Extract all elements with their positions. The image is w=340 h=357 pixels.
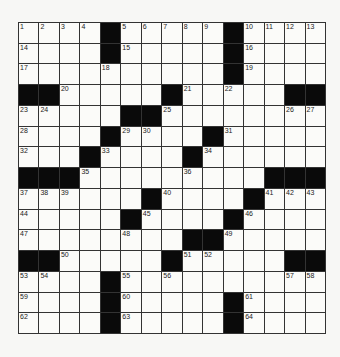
grid-cell[interactable]	[183, 210, 202, 230]
grid-cell[interactable]	[183, 44, 202, 64]
grid-cell[interactable]: 24	[39, 106, 58, 126]
grid-cell[interactable]: 57	[285, 272, 304, 292]
grid-cell[interactable]: 13	[306, 23, 325, 43]
grid-cell[interactable]	[265, 85, 284, 105]
grid-cell[interactable]	[183, 189, 202, 209]
grid-cell[interactable]	[142, 44, 161, 64]
grid-cell[interactable]	[306, 147, 325, 167]
grid-cell[interactable]	[183, 106, 202, 126]
grid-cell[interactable]: 5	[121, 23, 140, 43]
grid-cell[interactable]	[203, 106, 222, 126]
grid-cell[interactable]	[142, 293, 161, 313]
grid-cell[interactable]: 53	[19, 272, 38, 292]
grid-cell[interactable]	[183, 293, 202, 313]
grid-cell[interactable]: 20	[60, 85, 79, 105]
grid-cell[interactable]	[224, 272, 243, 292]
grid-cell[interactable]	[101, 168, 120, 188]
grid-cell[interactable]	[265, 210, 284, 230]
grid-cell[interactable]	[162, 230, 181, 250]
grid-cell[interactable]	[60, 272, 79, 292]
grid-cell[interactable]: 12	[285, 23, 304, 43]
grid-cell[interactable]: 29	[121, 127, 140, 147]
grid-cell[interactable]	[80, 251, 99, 271]
grid-cell[interactable]: 17	[19, 64, 38, 84]
grid-cell[interactable]: 22	[224, 85, 243, 105]
grid-cell[interactable]	[162, 210, 181, 230]
grid-cell[interactable]	[162, 168, 181, 188]
grid-cell[interactable]	[224, 106, 243, 126]
grid-cell[interactable]	[60, 147, 79, 167]
grid-cell[interactable]	[203, 210, 222, 230]
grid-cell[interactable]	[203, 64, 222, 84]
grid-cell[interactable]: 38	[39, 189, 58, 209]
grid-cell[interactable]	[285, 127, 304, 147]
grid-cell[interactable]: 28	[19, 127, 38, 147]
grid-cell[interactable]	[244, 272, 263, 292]
grid-cell[interactable]	[162, 127, 181, 147]
grid-cell[interactable]	[265, 64, 284, 84]
grid-cell[interactable]: 4	[80, 23, 99, 43]
grid-cell[interactable]	[203, 85, 222, 105]
grid-cell[interactable]	[121, 147, 140, 167]
grid-cell[interactable]	[80, 210, 99, 230]
grid-cell[interactable]: 50	[60, 251, 79, 271]
grid-cell[interactable]	[80, 85, 99, 105]
grid-cell[interactable]	[101, 106, 120, 126]
grid-cell[interactable]	[80, 189, 99, 209]
grid-cell[interactable]	[60, 313, 79, 333]
grid-cell[interactable]	[60, 64, 79, 84]
grid-cell[interactable]	[80, 64, 99, 84]
grid-cell[interactable]: 11	[265, 23, 284, 43]
grid-cell[interactable]	[306, 44, 325, 64]
grid-cell[interactable]: 32	[19, 147, 38, 167]
grid-cell[interactable]	[203, 44, 222, 64]
grid-cell[interactable]	[39, 210, 58, 230]
grid-cell[interactable]	[121, 168, 140, 188]
grid-cell[interactable]	[265, 106, 284, 126]
grid-cell[interactable]: 3	[60, 23, 79, 43]
grid-cell[interactable]	[60, 127, 79, 147]
grid-cell[interactable]	[285, 293, 304, 313]
grid-cell[interactable]: 21	[183, 85, 202, 105]
grid-cell[interactable]	[306, 230, 325, 250]
grid-cell[interactable]: 1	[19, 23, 38, 43]
grid-cell[interactable]: 43	[306, 189, 325, 209]
grid-cell[interactable]: 14	[19, 44, 38, 64]
grid-cell[interactable]: 10	[244, 23, 263, 43]
grid-cell[interactable]	[60, 106, 79, 126]
grid-cell[interactable]	[162, 293, 181, 313]
grid-cell[interactable]	[142, 85, 161, 105]
grid-cell[interactable]: 34	[203, 147, 222, 167]
grid-cell[interactable]: 45	[142, 210, 161, 230]
grid-cell[interactable]: 49	[224, 230, 243, 250]
grid-cell[interactable]	[224, 168, 243, 188]
grid-cell[interactable]: 55	[121, 272, 140, 292]
grid-cell[interactable]	[244, 85, 263, 105]
grid-cell[interactable]: 18	[101, 64, 120, 84]
grid-cell[interactable]	[60, 293, 79, 313]
grid-cell[interactable]	[121, 64, 140, 84]
grid-cell[interactable]	[224, 147, 243, 167]
grid-cell[interactable]: 25	[162, 106, 181, 126]
grid-cell[interactable]: 30	[142, 127, 161, 147]
grid-cell[interactable]: 54	[39, 272, 58, 292]
grid-cell[interactable]: 36	[183, 168, 202, 188]
grid-cell[interactable]	[183, 313, 202, 333]
grid-cell[interactable]	[80, 293, 99, 313]
grid-cell[interactable]: 9	[203, 23, 222, 43]
grid-cell[interactable]	[39, 293, 58, 313]
grid-cell[interactable]	[142, 251, 161, 271]
grid-cell[interactable]	[80, 44, 99, 64]
grid-cell[interactable]	[142, 147, 161, 167]
grid-cell[interactable]	[39, 313, 58, 333]
grid-cell[interactable]: 44	[19, 210, 38, 230]
grid-cell[interactable]	[244, 251, 263, 271]
grid-cell[interactable]: 15	[121, 44, 140, 64]
grid-cell[interactable]	[183, 64, 202, 84]
grid-cell[interactable]	[265, 293, 284, 313]
grid-cell[interactable]	[101, 230, 120, 250]
grid-cell[interactable]: 51	[183, 251, 202, 271]
grid-cell[interactable]	[80, 313, 99, 333]
grid-cell[interactable]: 47	[19, 230, 38, 250]
grid-cell[interactable]	[183, 127, 202, 147]
